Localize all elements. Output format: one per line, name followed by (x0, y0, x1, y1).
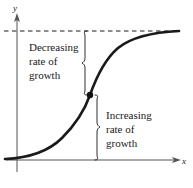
increasing-line-2: rate of (106, 123, 135, 135)
decreasing-rate-annotation: Decreasing rate of growth (29, 41, 79, 81)
figure-canvas: y x Decreasing rate of growth Increasing… (0, 0, 193, 188)
increasing-line-3: growth (106, 137, 138, 149)
increasing-line-1: Increasing (106, 109, 152, 121)
decreasing-line-1: Decreasing (29, 41, 79, 53)
decreasing-line-2: rate of (29, 55, 58, 67)
calculus-growth-figure: y x Decreasing rate of growth Increasing… (0, 0, 193, 188)
inflection-point-marker (87, 92, 93, 98)
decreasing-line-3: growth (29, 69, 61, 81)
y-axis-label: y (12, 3, 17, 13)
increasing-rate-annotation: Increasing rate of growth (106, 109, 152, 149)
decreasing-rate-brace (82, 31, 87, 95)
x-axis-label: x (181, 156, 186, 166)
increasing-rate-brace (95, 95, 100, 160)
